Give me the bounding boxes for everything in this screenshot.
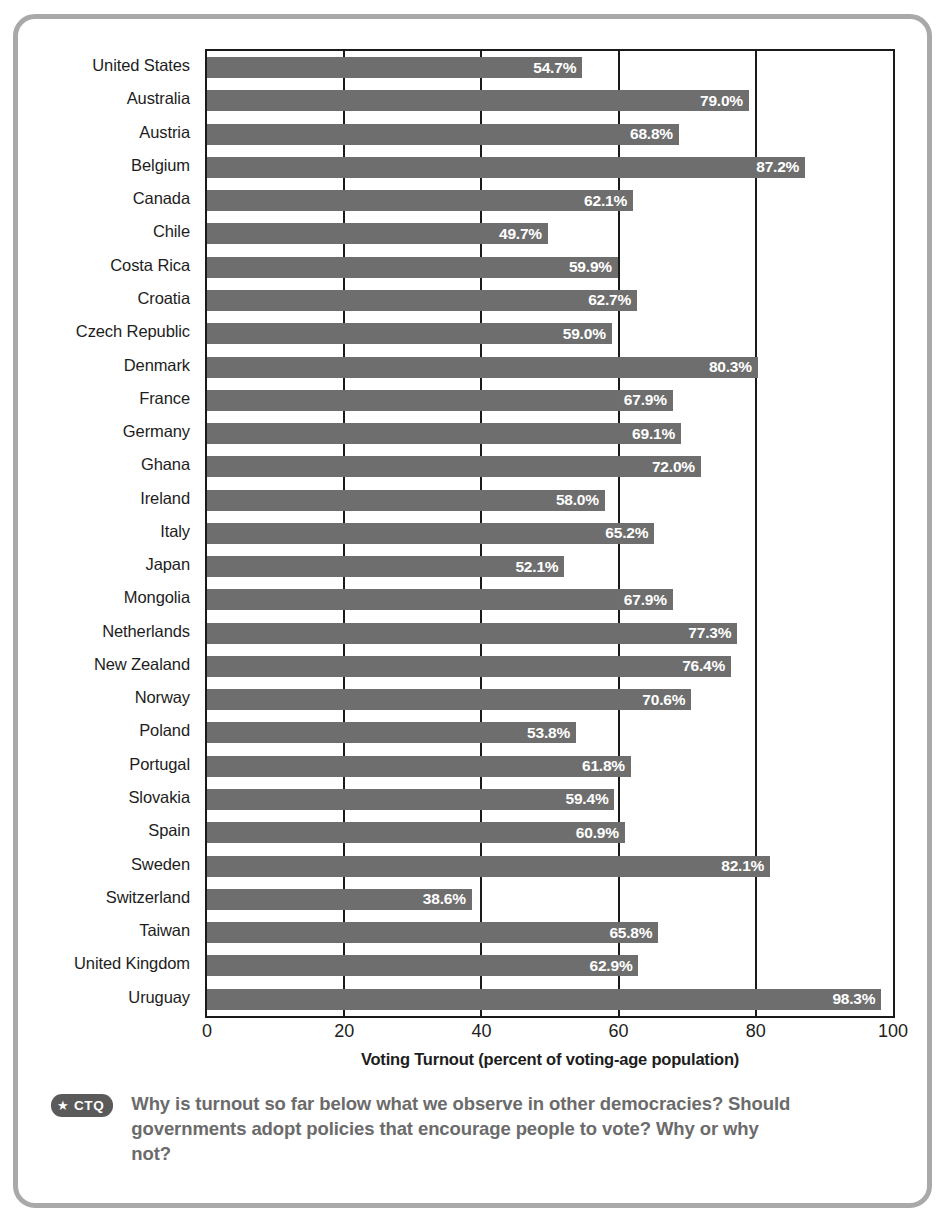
- y-axis-label-row: Germany: [18, 415, 198, 448]
- y-axis-label: Netherlands: [102, 622, 190, 641]
- bar[interactable]: 77.3%: [207, 623, 737, 644]
- bar-value-label: 68.8%: [630, 125, 679, 143]
- star-icon: ★: [57, 1099, 69, 1112]
- y-axis-label-row: Norway: [18, 681, 198, 714]
- bar-rows: 54.7%79.0%68.8%87.2%62.1%49.7%59.9%62.7%…: [207, 51, 893, 1016]
- bar-value-label: 65.2%: [605, 524, 654, 542]
- bar-row[interactable]: 54.7%: [207, 51, 893, 84]
- y-axis-label-row: Japan: [18, 548, 198, 581]
- bar-row[interactable]: 61.8%: [207, 750, 893, 783]
- y-axis-label-row: Austria: [18, 116, 198, 149]
- bar-value-label: 67.9%: [624, 391, 673, 409]
- bar[interactable]: 54.7%: [207, 57, 582, 78]
- bar[interactable]: 58.0%: [207, 490, 605, 511]
- bar[interactable]: 59.9%: [207, 257, 618, 278]
- bar[interactable]: 68.8%: [207, 124, 679, 145]
- bar-row[interactable]: 59.0%: [207, 317, 893, 350]
- bar[interactable]: 60.9%: [207, 822, 625, 843]
- ctq-badge-label: CTQ: [74, 1098, 104, 1113]
- x-tick-0: 0: [202, 1021, 212, 1042]
- bar-row[interactable]: 60.9%: [207, 816, 893, 849]
- y-axis-label: Italy: [160, 522, 190, 541]
- x-tick-80: 80: [746, 1021, 766, 1042]
- y-axis-label: Slovakia: [128, 788, 190, 807]
- y-axis-label: Mongolia: [124, 588, 190, 607]
- bar-row[interactable]: 67.9%: [207, 583, 893, 616]
- bar-value-label: 70.6%: [642, 691, 691, 709]
- y-axis-label: Germany: [123, 422, 190, 441]
- bar-row[interactable]: 67.9%: [207, 384, 893, 417]
- x-tick-100: 100: [878, 1021, 908, 1042]
- bar-row[interactable]: 62.1%: [207, 184, 893, 217]
- bar-row[interactable]: 65.8%: [207, 916, 893, 949]
- y-axis-label-row: Switzerland: [18, 881, 198, 914]
- bar[interactable]: 67.9%: [207, 589, 673, 610]
- bar-row[interactable]: 58.0%: [207, 483, 893, 516]
- bar[interactable]: 87.2%: [207, 157, 805, 178]
- bar-row[interactable]: 52.1%: [207, 550, 893, 583]
- bar[interactable]: 38.6%: [207, 889, 472, 910]
- y-axis-label: Croatia: [138, 289, 191, 308]
- bar-row[interactable]: 87.2%: [207, 151, 893, 184]
- bar-row[interactable]: 76.4%: [207, 650, 893, 683]
- y-axis-label-row: Mongolia: [18, 581, 198, 614]
- bar-value-label: 80.3%: [709, 358, 758, 376]
- bar[interactable]: 76.4%: [207, 656, 731, 677]
- y-axis-label-row: United Kingdom: [18, 947, 198, 980]
- bar-row[interactable]: 69.1%: [207, 417, 893, 450]
- bar[interactable]: 82.1%: [207, 856, 770, 877]
- ctq-badge: ★ CTQ: [51, 1094, 113, 1117]
- bar-row[interactable]: 77.3%: [207, 617, 893, 650]
- bar-row[interactable]: 68.8%: [207, 118, 893, 151]
- bar[interactable]: 59.0%: [207, 323, 612, 344]
- bar-value-label: 38.6%: [423, 890, 472, 908]
- y-axis-label: Ireland: [140, 489, 190, 508]
- bar[interactable]: 59.4%: [207, 789, 614, 810]
- y-axis-label: New Zealand: [94, 655, 190, 674]
- bar[interactable]: 61.8%: [207, 756, 631, 777]
- bar-row[interactable]: 38.6%: [207, 883, 893, 916]
- y-axis-label: Denmark: [124, 356, 190, 375]
- x-tick-20: 20: [334, 1021, 354, 1042]
- y-axis-label-row: Australia: [18, 82, 198, 115]
- bar-row[interactable]: 80.3%: [207, 350, 893, 383]
- bar[interactable]: 72.0%: [207, 456, 701, 477]
- bar[interactable]: 65.2%: [207, 523, 654, 544]
- bar-value-label: 87.2%: [756, 158, 805, 176]
- bar-row[interactable]: 72.0%: [207, 450, 893, 483]
- bar[interactable]: 53.8%: [207, 722, 576, 743]
- bar-row[interactable]: 59.9%: [207, 251, 893, 284]
- bar-row[interactable]: 79.0%: [207, 84, 893, 117]
- bar-row[interactable]: 59.4%: [207, 783, 893, 816]
- bar-row[interactable]: 82.1%: [207, 849, 893, 882]
- bar-row[interactable]: 70.6%: [207, 683, 893, 716]
- bar[interactable]: 62.7%: [207, 290, 637, 311]
- bar-value-label: 67.9%: [624, 591, 673, 609]
- bar[interactable]: 70.6%: [207, 689, 691, 710]
- bar[interactable]: 62.9%: [207, 955, 638, 976]
- bar[interactable]: 49.7%: [207, 223, 548, 244]
- bar-row[interactable]: 65.2%: [207, 517, 893, 550]
- bar[interactable]: 62.1%: [207, 190, 633, 211]
- bar[interactable]: 79.0%: [207, 90, 749, 111]
- bar[interactable]: 80.3%: [207, 357, 758, 378]
- bar[interactable]: 52.1%: [207, 556, 564, 577]
- bar-row[interactable]: 62.7%: [207, 284, 893, 317]
- bar-value-label: 77.3%: [688, 624, 737, 642]
- bar[interactable]: 98.3%: [207, 989, 881, 1010]
- bar[interactable]: 69.1%: [207, 423, 681, 444]
- bar[interactable]: 65.8%: [207, 922, 658, 943]
- bar-row[interactable]: 98.3%: [207, 982, 893, 1015]
- y-axis-label: Czech Republic: [76, 322, 190, 341]
- bar[interactable]: 67.9%: [207, 390, 673, 411]
- bar-row[interactable]: 49.7%: [207, 217, 893, 250]
- y-axis-label-row: Netherlands: [18, 615, 198, 648]
- y-axis-label: Switzerland: [106, 888, 190, 907]
- bar-value-label: 69.1%: [632, 425, 681, 443]
- bar-value-label: 62.7%: [588, 291, 637, 309]
- bar-row[interactable]: 62.9%: [207, 949, 893, 982]
- bar-value-label: 72.0%: [652, 458, 701, 476]
- ctq-caption-block: ★ CTQ Why is turnout so far below what w…: [51, 1091, 897, 1166]
- bar-row[interactable]: 53.8%: [207, 716, 893, 749]
- y-axis-label-row: Spain: [18, 814, 198, 847]
